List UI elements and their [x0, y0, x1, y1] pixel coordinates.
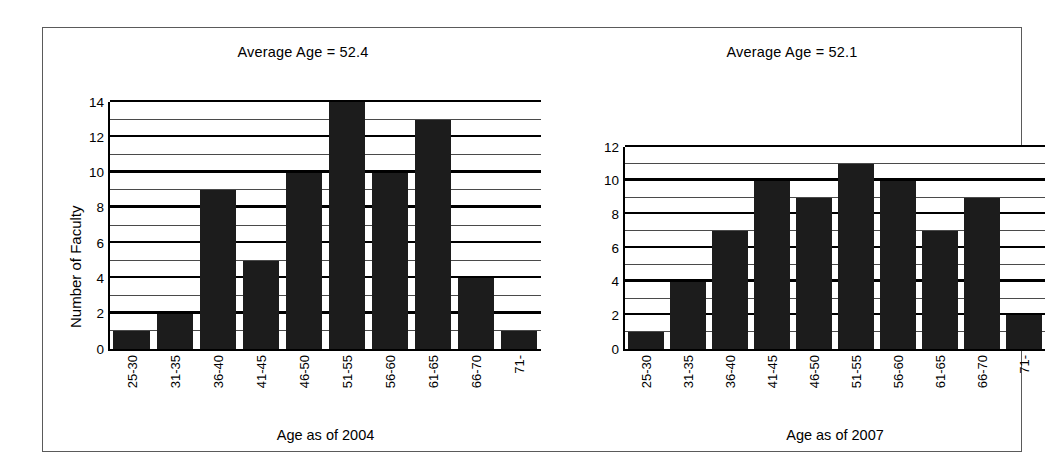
x-tick-slot: 61-65: [919, 349, 961, 419]
x-tick-label: 56-60: [383, 355, 398, 388]
x-tick-slot: 31-35: [667, 349, 709, 419]
bar: [754, 181, 789, 349]
bar-slot: [625, 147, 667, 349]
bar: [286, 173, 322, 349]
x-tick-label: 71-: [512, 355, 527, 374]
x-axis-title-2007: Age as of 2007: [625, 427, 1045, 443]
y-tick-label: 14: [89, 95, 104, 109]
bar-slot: [455, 102, 498, 349]
y-tick-label: 4: [96, 272, 104, 286]
x-tick-slot: 41-45: [751, 349, 793, 419]
x-tick-slot: 51-55: [325, 349, 368, 419]
x-tick-label: 51-55: [340, 355, 355, 388]
y-tick-label: 2: [611, 309, 619, 323]
x-tick-label: 31-35: [167, 355, 182, 388]
x-tick-slot: 46-50: [793, 349, 835, 419]
bar-slot: [369, 102, 412, 349]
x-tick-label: 61-65: [933, 355, 948, 388]
x-tick-slot: 25-30: [625, 349, 667, 419]
x-tick-label: 41-45: [765, 355, 780, 388]
x-tick-label: 56-60: [891, 355, 906, 388]
y-tick-label: 0: [96, 342, 104, 356]
bar: [922, 231, 957, 349]
plot-area-2004: 02468101214 25-3031-3536-4041-4546-5051-…: [108, 102, 541, 351]
x-tick-label: 51-55: [849, 355, 864, 388]
x-tick-label: 46-50: [296, 355, 311, 388]
chart-panel-2007: Average Age = 52.1 024681012 25-3031-353…: [543, 28, 1023, 451]
x-tick-label: 71-: [1017, 355, 1032, 374]
bar: [113, 331, 149, 349]
bar: [796, 198, 831, 350]
x-tick-labels-2007: 25-3031-3536-4041-4546-5051-5556-6061-65…: [625, 349, 1045, 419]
x-tick-slot: 51-55: [835, 349, 877, 419]
x-tick-label: 36-40: [210, 355, 225, 388]
x-tick-slot: 66-70: [455, 349, 498, 419]
x-tick-label: 31-35: [681, 355, 696, 388]
x-tick-labels-2004: 25-3031-3536-4041-4546-5051-5556-6061-65…: [110, 349, 541, 419]
bar-slot: [709, 147, 751, 349]
bars-2004: [110, 102, 541, 349]
bar-slot: [325, 102, 368, 349]
bar: [670, 282, 705, 349]
x-tick-slot: 36-40: [196, 349, 239, 419]
chart-title-2007: Average Age = 52.1: [543, 44, 1023, 60]
bar-slot: [919, 147, 961, 349]
chart-title-2004: Average Age = 52.4: [43, 44, 543, 60]
x-tick-label: 61-65: [426, 355, 441, 388]
y-tick-label: 8: [611, 208, 619, 222]
bar-slot: [793, 147, 835, 349]
bar-slot: [961, 147, 1003, 349]
bar: [200, 190, 236, 349]
x-tick-slot: 46-50: [282, 349, 325, 419]
figure-frame: Average Age = 52.4 Number of Faculty 024…: [42, 27, 1022, 452]
bar-slot: [282, 102, 325, 349]
plot-area-2007: 024681012 25-3031-3536-4041-4546-5051-55…: [623, 147, 1045, 351]
y-tick-label: 12: [604, 140, 619, 154]
bar: [628, 332, 663, 349]
bars-2007: [625, 147, 1045, 349]
y-tick-label: 12: [89, 131, 104, 145]
bar-slot: [1003, 147, 1045, 349]
x-tick-slot: 66-70: [961, 349, 1003, 419]
y-tick-label: 10: [604, 174, 619, 188]
x-axis-title-2004: Age as of 2004: [110, 427, 541, 443]
x-tick-label: 66-70: [469, 355, 484, 388]
bar-slot: [110, 102, 153, 349]
bar-slot: [498, 102, 541, 349]
x-tick-label: 36-40: [723, 355, 738, 388]
bar: [838, 164, 873, 349]
bar: [329, 102, 365, 349]
x-tick-slot: 61-65: [412, 349, 455, 419]
bar-slot: [239, 102, 282, 349]
y-tick-label: 8: [96, 201, 104, 215]
y-tick-label: 2: [96, 307, 104, 321]
bar-slot: [412, 102, 455, 349]
x-tick-label: 46-50: [807, 355, 822, 388]
bar: [243, 261, 279, 349]
x-tick-slot: 56-60: [877, 349, 919, 419]
y-tick-label: 4: [611, 275, 619, 289]
bar-slot: [667, 147, 709, 349]
bar: [372, 173, 408, 349]
x-tick-slot: 71-: [1003, 349, 1045, 419]
bar: [415, 120, 451, 349]
y-axis-title-2004: Number of Faculty: [67, 205, 84, 328]
bar-slot: [835, 147, 877, 349]
bar: [1006, 315, 1041, 349]
y-tick-label: 6: [611, 241, 619, 255]
bar-slot: [877, 147, 919, 349]
y-tick-label: 0: [611, 342, 619, 356]
y-tick-label: 6: [96, 236, 104, 250]
bar: [458, 278, 494, 349]
bar: [880, 181, 915, 349]
bar: [712, 231, 747, 349]
x-tick-slot: 36-40: [709, 349, 751, 419]
x-tick-label: 66-70: [975, 355, 990, 388]
x-tick-label: 25-30: [124, 355, 139, 388]
x-tick-slot: 41-45: [239, 349, 282, 419]
chart-panel-2004: Average Age = 52.4 Number of Faculty 024…: [43, 28, 543, 451]
y-tick-label: 10: [89, 166, 104, 180]
x-tick-slot: 31-35: [153, 349, 196, 419]
x-tick-label: 25-30: [639, 355, 654, 388]
bar: [157, 314, 193, 349]
